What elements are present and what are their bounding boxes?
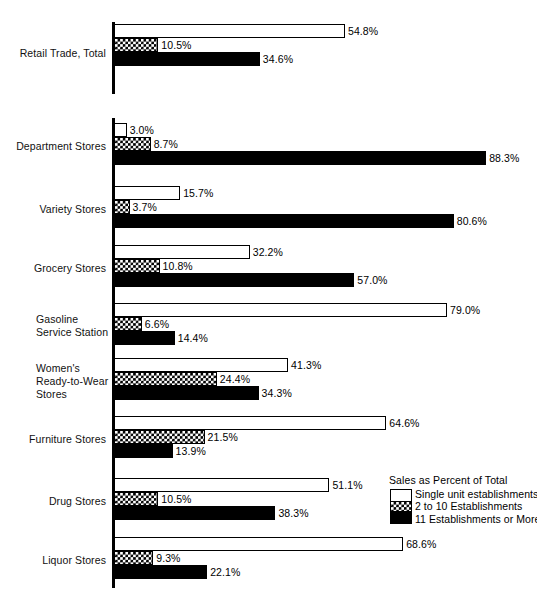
bar-1 — [114, 416, 386, 430]
bar-1 — [114, 478, 329, 492]
bar-value-label: 51.1% — [329, 478, 362, 492]
bar-1 — [114, 123, 127, 137]
legend-item-2-to-10: 2 to 10 Establishments — [415, 500, 537, 512]
chart-legend: Sales as Percent of Total Single unit es… — [389, 474, 537, 525]
bar-value-label: 57.0% — [354, 273, 387, 287]
category-label: Retail Trade, Total — [10, 47, 106, 60]
category-label: Drug Stores — [10, 495, 106, 508]
bar-value-label: 68.6% — [403, 537, 436, 551]
bar-2 — [114, 259, 160, 273]
bar-3 — [114, 331, 175, 345]
bar-value-label: 79.0% — [447, 303, 480, 317]
bar-3 — [114, 273, 354, 287]
bar-2 — [114, 200, 130, 214]
category-label: Department Stores — [10, 140, 106, 153]
bar-value-label: 13.9% — [173, 444, 206, 458]
bar-2 — [114, 38, 158, 52]
bar-value-label: 88.3% — [486, 151, 519, 165]
legend-swatch-11-or-more — [391, 512, 411, 523]
bar-value-label: 34.6% — [260, 52, 293, 66]
bar-value-label: 21.5% — [205, 430, 238, 444]
bar-1 — [114, 537, 403, 551]
bar-value-label: 9.3% — [153, 551, 180, 565]
category-label: Furniture Stores — [10, 433, 106, 446]
category-label: Grocery Stores — [10, 262, 106, 275]
bar-2 — [114, 317, 142, 331]
bar-value-label: 3.7% — [130, 200, 157, 214]
legend-item-11-or-more: 11 Establishments or More — [415, 513, 537, 525]
bar-1 — [114, 186, 180, 200]
bar-1 — [114, 358, 288, 372]
bar-chart: Retail Trade, TotalDepartment StoresVari… — [0, 0, 537, 602]
bar-1 — [114, 245, 250, 259]
bar-3 — [114, 386, 259, 400]
bar-3 — [114, 52, 260, 66]
bar-1 — [114, 303, 447, 317]
bar-value-label: 8.7% — [151, 137, 178, 151]
bar-3 — [114, 565, 207, 579]
bar-value-label: 10.5% — [158, 492, 191, 506]
bar-2 — [114, 430, 205, 444]
legend-swatch-single-unit — [391, 490, 411, 501]
bar-3 — [114, 506, 275, 520]
bar-3 — [114, 214, 454, 228]
bar-value-label: 3.0% — [127, 123, 154, 137]
bar-2 — [114, 492, 158, 506]
bar-value-label: 41.3% — [288, 358, 321, 372]
category-label: Gasoline Service Station — [36, 313, 112, 339]
bar-2 — [114, 372, 217, 386]
bar-value-label: 10.8% — [160, 259, 193, 273]
bar-value-label: 6.6% — [142, 317, 169, 331]
bar-value-label: 32.2% — [250, 245, 283, 259]
bar-3 — [114, 444, 173, 458]
legend-title: Sales as Percent of Total — [389, 474, 537, 487]
bar-3 — [114, 151, 486, 165]
legend-item-single-unit: Single unit establishments — [415, 488, 537, 500]
bar-2 — [114, 137, 151, 151]
category-label: Women's Ready-to-Wear Stores — [36, 362, 112, 401]
bar-value-label: 15.7% — [180, 186, 213, 200]
bar-1 — [114, 24, 345, 38]
bar-value-label: 64.6% — [386, 416, 419, 430]
bar-value-label: 38.3% — [275, 506, 308, 520]
bar-value-label: 54.8% — [345, 24, 378, 38]
legend-body: Single unit establishments 2 to 10 Estab… — [389, 488, 537, 525]
category-label: Variety Stores — [10, 203, 106, 216]
legend-swatches — [390, 489, 412, 524]
bar-value-label: 24.4% — [217, 372, 250, 386]
bar-2 — [114, 551, 153, 565]
category-label: Liquor Stores — [10, 554, 106, 567]
bar-value-label: 10.5% — [158, 38, 191, 52]
bar-value-label: 34.3% — [259, 386, 292, 400]
bar-value-label: 14.4% — [175, 331, 208, 345]
legend-swatch-2-to-10 — [391, 501, 411, 512]
bar-value-label: 22.1% — [207, 565, 240, 579]
bar-value-label: 80.6% — [454, 214, 487, 228]
